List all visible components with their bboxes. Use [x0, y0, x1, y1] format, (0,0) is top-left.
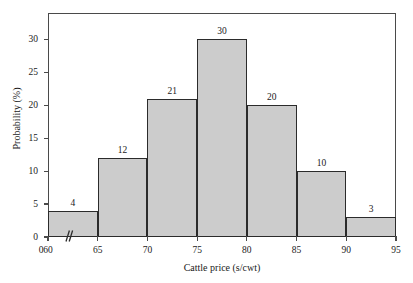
x-tick-mark	[346, 236, 347, 241]
x-tick-mark	[395, 236, 396, 241]
x-tick-mark	[296, 236, 297, 241]
y-axis-title: Probability (%)	[11, 59, 22, 179]
x-origin-label: 0	[28, 245, 54, 255]
x-tick-label: 75	[184, 245, 210, 255]
x-tick-label: 90	[333, 245, 359, 255]
x-tick-label: 85	[284, 245, 310, 255]
x-axis-title: Cattle price (s/cwt)	[48, 262, 396, 273]
x-tick-mark	[246, 236, 247, 241]
histogram-figure: 412213020103 051015202530 60657075808590…	[0, 0, 413, 283]
x-tick-label: 80	[234, 245, 260, 255]
x-tick-label: 70	[134, 245, 160, 255]
x-tick-mark	[47, 236, 48, 241]
x-tick-mark	[97, 236, 98, 241]
x-tick-mark	[147, 236, 148, 241]
axis-break-icon	[62, 229, 76, 243]
x-tick-label: 65	[85, 245, 111, 255]
x-tick-label: 95	[383, 245, 409, 255]
x-tick-mark	[197, 236, 198, 241]
